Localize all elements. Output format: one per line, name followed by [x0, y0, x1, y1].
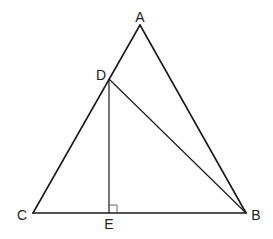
label-d: D [96, 67, 106, 83]
segment-db [109, 79, 246, 213]
label-b: B [251, 207, 260, 223]
label-c: C [17, 207, 27, 223]
segment-ab [140, 25, 246, 213]
label-e: E [104, 216, 113, 232]
label-a: A [135, 9, 145, 25]
right-angle-marker [109, 205, 117, 213]
segment-ac [33, 25, 140, 213]
triangle-diagram: A B C D E [0, 0, 273, 239]
